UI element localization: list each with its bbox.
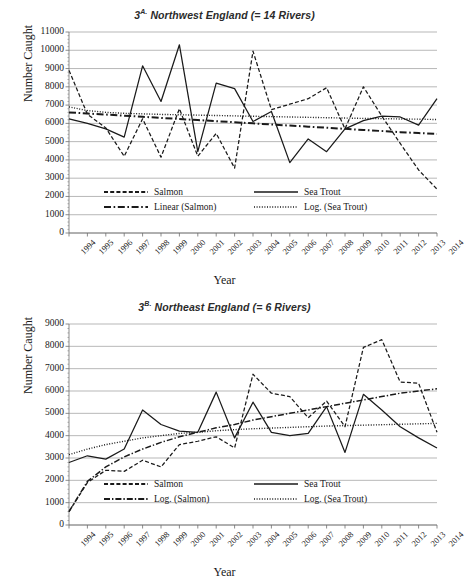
- y-tick-label: 4000: [20, 431, 64, 441]
- y-tick-label: 0: [20, 228, 64, 238]
- legend-swatch-icon: [253, 187, 299, 197]
- legend-label: Sea Trout: [304, 187, 341, 197]
- legend-item-salmon: Salmon: [103, 187, 253, 197]
- y-tick-label: 8000: [20, 341, 64, 351]
- y-tick-label: 11000: [20, 27, 64, 37]
- series-line-log-sea-trout: [69, 107, 437, 120]
- legend-swatch-icon: [253, 479, 299, 489]
- y-tick-label: 5000: [20, 408, 64, 418]
- chart-a-legend: SalmonSea TroutLinear (Salmon)Log. (Sea …: [103, 184, 367, 214]
- legend-swatch-icon: [253, 202, 299, 212]
- legend-swatch-icon: [103, 479, 149, 489]
- y-tick-label: 2000: [20, 191, 64, 201]
- y-tick-label: 6000: [20, 118, 64, 128]
- y-tick-label: 0: [20, 520, 64, 530]
- chart-b-plot-area: 0100020003000400050006000700080009000 19…: [0, 292, 449, 584]
- y-tick-label: 7000: [20, 100, 64, 110]
- legend-swatch-icon: [103, 494, 149, 504]
- legend-label: Sea Trout: [304, 479, 341, 489]
- series-line-sea-trout: [69, 45, 437, 163]
- legend-item-sea-trout: Sea Trout: [253, 187, 341, 197]
- y-tick-label: 9000: [20, 64, 64, 74]
- y-tick-label: 1000: [20, 498, 64, 508]
- legend-swatch-icon: [253, 494, 299, 504]
- y-tick-label: 6000: [20, 386, 64, 396]
- legend-item-log-salmon: Log. (Salmon): [103, 494, 253, 504]
- legend-swatch-icon: [103, 187, 149, 197]
- legend-item-linear-salmon: Linear (Salmon): [103, 202, 253, 212]
- legend-label: Salmon: [154, 479, 183, 489]
- legend-label: Log. (Sea Trout): [304, 202, 367, 212]
- legend-swatch-icon: [103, 202, 149, 212]
- legend-label: Log. (Sea Trout): [304, 494, 367, 504]
- series-line-log-sea-trout: [69, 423, 437, 454]
- y-tick-label: 4000: [20, 155, 64, 165]
- y-tick-label: 10000: [20, 45, 64, 55]
- chart-a-plot-area: 0100020003000400050006000700080009000100…: [0, 0, 449, 292]
- y-tick-label: 8000: [20, 82, 64, 92]
- legend-item-log-sea-trout: Log. (Sea Trout): [253, 494, 367, 504]
- legend-row: SalmonSea Trout: [103, 476, 367, 491]
- y-tick-label: 5000: [20, 137, 64, 147]
- legend-row: SalmonSea Trout: [103, 184, 367, 199]
- y-tick-label: 3000: [20, 173, 64, 183]
- legend-label: Log. (Salmon): [154, 494, 209, 504]
- legend-row: Linear (Salmon)Log. (Sea Trout): [103, 199, 367, 214]
- legend-label: Linear (Salmon): [154, 202, 217, 212]
- x-tick-label: 2014: [447, 530, 465, 548]
- y-tick-label: 7000: [20, 364, 64, 374]
- chart-b-legend: SalmonSea TroutLog. (Salmon)Log. (Sea Tr…: [103, 476, 367, 506]
- legend-item-sea-trout: Sea Trout: [253, 479, 341, 489]
- legend-item-log-sea-trout: Log. (Sea Trout): [253, 202, 367, 212]
- y-tick-label: 1000: [20, 210, 64, 220]
- legend-row: Log. (Salmon)Log. (Sea Trout): [103, 491, 367, 506]
- y-tick-label: 3000: [20, 453, 64, 463]
- chart-northwest-england: 3A. Northwest England (= 14 Rivers) Numb…: [0, 0, 449, 292]
- chart-northeast-england: 3B. Northeast England (= 6 Rivers) Numbe…: [0, 292, 449, 584]
- legend-item-salmon: Salmon: [103, 479, 253, 489]
- x-tick-label: 2014: [447, 238, 465, 256]
- series-line-sea-trout: [69, 392, 437, 462]
- y-tick-label: 9000: [20, 319, 64, 329]
- series-line-salmon: [69, 51, 437, 189]
- legend-label: Salmon: [154, 187, 183, 197]
- y-tick-label: 2000: [20, 475, 64, 485]
